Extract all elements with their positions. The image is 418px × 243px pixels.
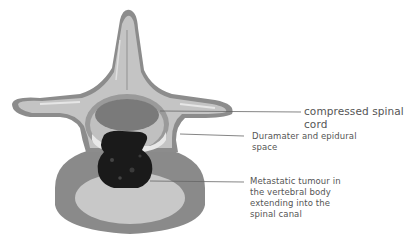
metastatic-tumour bbox=[98, 131, 153, 188]
label-metastatic-tumour: Metastatic tumour in the vertebral body … bbox=[250, 176, 341, 220]
label-line: Metastatic tumour in bbox=[250, 176, 341, 187]
label-line: Duramater and epidural bbox=[252, 131, 357, 142]
label-text: compressed spinal cord bbox=[304, 105, 404, 130]
label-line: extending into the bbox=[250, 198, 341, 209]
label-line: the vertebral body bbox=[250, 187, 341, 198]
compressed-spinal-cord bbox=[95, 99, 159, 131]
label-line: space bbox=[252, 142, 357, 153]
label-line: spinal canal bbox=[250, 209, 341, 220]
label-compressed-spinal-cord: compressed spinal cord bbox=[304, 105, 418, 131]
label-duramater-epidural: Duramater and epidural space bbox=[252, 131, 357, 153]
leader-line-dura bbox=[180, 134, 244, 136]
